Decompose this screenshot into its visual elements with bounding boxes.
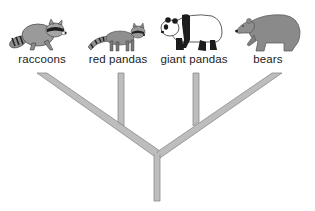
label-bears: bears <box>253 53 282 65</box>
branch-giant-pandas <box>193 73 199 126</box>
giant-panda-icon <box>160 10 226 54</box>
phylogenetic-diagram: raccoons red pandas giant pandas bears <box>0 0 315 211</box>
branch-bears <box>157 73 282 158</box>
label-raccoons: raccoons <box>18 53 65 65</box>
label-giant-pandas: giant pandas <box>160 53 227 65</box>
branch-red-pandas <box>118 73 124 126</box>
branch-raccoons <box>37 73 160 158</box>
raccoon-icon <box>8 18 70 52</box>
red-panda-icon <box>86 23 150 53</box>
bear-icon <box>234 13 302 53</box>
label-red-pandas: red pandas <box>89 53 148 65</box>
branch-trunk <box>154 154 160 201</box>
